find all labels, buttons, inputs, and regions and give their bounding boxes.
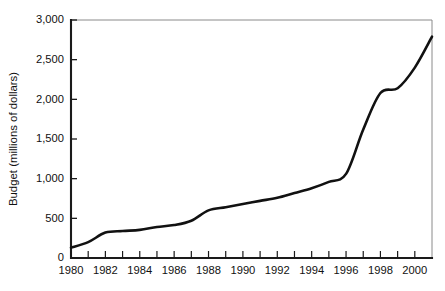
budget-data-line [71,37,432,248]
x-tick-label: 1990 [230,264,255,276]
plot-frame [71,20,432,258]
x-tick-label: 1998 [368,264,393,276]
y-tick-label: 2,000 [36,93,64,105]
axis-lines [71,20,432,258]
x-tick-label: 1982 [93,264,118,276]
y-tick-label: 0 [58,251,64,263]
x-tick-label: 1996 [334,264,359,276]
y-tick-label: 1,500 [36,132,64,144]
y-tick-label: 500 [45,212,64,224]
x-axis-ticks [71,251,415,258]
x-tick-label: 1980 [59,264,84,276]
budget-line-chart: 05001,0001,5002,0002,5003,000 1980198219… [0,0,445,291]
y-axis-tick-labels: 05001,0001,5002,0002,5003,000 [36,13,64,263]
x-tick-label: 1986 [162,264,187,276]
chart-canvas: 05001,0001,5002,0002,5003,000 1980198219… [0,0,445,291]
x-axis-tick-labels: 1980198219841986198819901992199419961998… [59,264,428,276]
x-tick-label: 1988 [196,264,221,276]
x-tick-label: 1992 [265,264,290,276]
y-axis-title: Budget (millions of dollars) [7,72,19,206]
x-tick-label: 2000 [402,264,427,276]
y-tick-label: 1,000 [36,172,64,184]
y-tick-label: 3,000 [36,13,64,25]
x-tick-label: 1994 [299,264,324,276]
y-tick-label: 2,500 [36,53,64,65]
x-tick-label: 1984 [127,264,152,276]
